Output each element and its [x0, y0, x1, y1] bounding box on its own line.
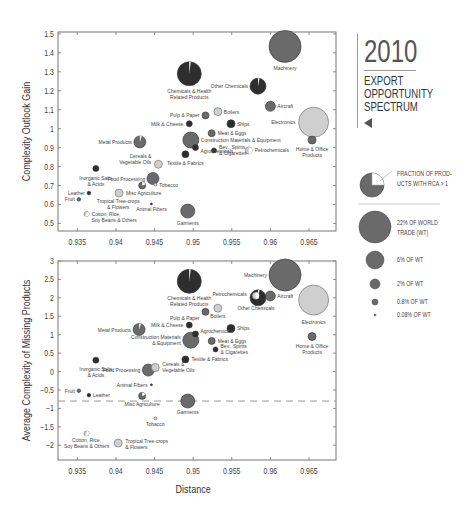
legend-size-circle	[372, 299, 378, 305]
bubble	[181, 394, 195, 408]
y-tick-label: 1.5	[44, 29, 54, 39]
point-label: Products	[302, 349, 322, 355]
bubble	[177, 269, 201, 293]
bubble	[269, 30, 301, 62]
bubble	[93, 165, 99, 171]
bubble	[299, 285, 329, 315]
y-tick-label: 0	[50, 367, 54, 377]
point-label: Misc Agriculture	[125, 401, 161, 407]
bubble	[252, 292, 259, 299]
point-label: Construction Materials & Equipment	[201, 137, 281, 143]
point-label: Leather	[93, 392, 110, 398]
y-tick-label: 0.8	[44, 162, 54, 172]
point-label: Other Chemicals	[237, 305, 275, 311]
bubble	[150, 203, 152, 205]
legend-size-label: TRADE (WT)	[397, 230, 428, 237]
bubble	[139, 182, 146, 189]
bubble	[269, 259, 301, 291]
legend-size-circle	[374, 314, 376, 316]
x-tick-label: 0.935	[69, 466, 86, 476]
bottom-scatter-panel: 0.9350.940.9450.950.9550.960.965−2−1.5−1…	[20, 256, 336, 495]
y-tick-label: 0.5	[44, 219, 54, 229]
title-divider	[364, 70, 416, 71]
title-block: 2010 EXPORT OPPORTUNITY SPECTRUM	[357, 34, 471, 128]
bubble	[87, 191, 91, 195]
bubble	[214, 108, 222, 116]
point-label: Garments	[177, 220, 199, 226]
y-axis-label: Complexity Outlook Gain	[20, 82, 32, 182]
y-tick-label: 3	[50, 256, 54, 266]
point-label: Agrochemicals	[200, 328, 233, 334]
bubble	[250, 78, 266, 94]
bubble	[77, 198, 81, 202]
bubble	[154, 183, 157, 186]
bubble	[202, 112, 209, 119]
bubble	[84, 211, 89, 216]
bubble	[84, 431, 89, 436]
x-tick-label: 0.96	[264, 466, 278, 476]
bubble	[192, 145, 198, 151]
point-label: Milk & Cheese	[151, 322, 183, 328]
x-tick-label: 0.95	[186, 237, 200, 247]
bubble	[87, 393, 91, 397]
bubble	[115, 189, 123, 197]
point-label: Machinery	[244, 272, 268, 278]
point-label: Related Products	[170, 94, 209, 100]
bubble	[77, 389, 81, 393]
y-tick-label: −1.5	[40, 422, 54, 432]
x-tick-label: 0.95	[186, 466, 200, 476]
point-label: Boilers	[224, 109, 240, 115]
bubble	[177, 62, 201, 86]
legend-size-label: 6% OF WT	[397, 257, 424, 264]
y-tick-label: −2	[46, 441, 54, 451]
triangle-left-icon	[364, 118, 372, 128]
point-label: & Equipment	[152, 340, 181, 346]
point-label: Textile & Fabrics	[191, 356, 228, 362]
point-label: & Cigarettes	[221, 349, 249, 355]
top-scatter-panel: 0.9350.940.9450.950.9550.960.9650.50.60.…	[20, 29, 336, 247]
point-label: Fruit	[65, 388, 76, 394]
x-axis-label: Distance	[176, 483, 211, 495]
legend-size-label: 22% OF WORLD	[397, 220, 438, 227]
point-label: & Acids	[87, 181, 104, 187]
bubble	[150, 384, 152, 386]
bubble	[154, 417, 157, 420]
legend-size-label: 0.08% OF WT	[397, 312, 431, 319]
y-tick-label: −1	[46, 404, 54, 414]
y-tick-label: 1.4	[44, 48, 54, 58]
bubble	[202, 308, 209, 315]
y-tick-label: 0.7	[44, 181, 54, 191]
bubble	[265, 291, 275, 301]
x-tick-label: 0.935	[69, 237, 86, 247]
bubble	[93, 357, 99, 363]
legend-size-circle	[359, 211, 391, 243]
point-label: Meat & Eggs	[218, 130, 247, 136]
point-label: Misc Agriculture	[126, 190, 162, 196]
point-label: Garments	[177, 409, 199, 415]
bubble	[213, 347, 218, 352]
y-tick-label: −0.5	[40, 385, 54, 395]
bubble	[182, 151, 189, 158]
point-label: Leather	[68, 190, 85, 196]
point-label: & Cigarettes	[219, 150, 247, 156]
bubble	[134, 136, 146, 148]
bubble	[114, 439, 122, 447]
point-label: Milk & Cheese	[151, 121, 183, 127]
legend-pie-label: FRACTION OF PROD-	[397, 171, 452, 178]
point-label: Tobacco	[159, 182, 178, 188]
point-label: Related Products	[170, 301, 209, 307]
y-axis-label: Average Complexity of Missing Products	[20, 280, 32, 442]
x-tick-label: 0.96	[264, 237, 278, 247]
bubble	[308, 136, 316, 144]
y-tick-label: 1.1	[44, 105, 54, 115]
x-tick-label: 0.945	[146, 466, 163, 476]
bubble	[147, 173, 159, 185]
x-tick-label: 0.94	[109, 237, 123, 247]
legend-size-label: 2% OF WT	[397, 281, 424, 288]
legend-pie-label: UCTS WITH RCA > 1	[397, 181, 449, 188]
point-label: Electronics	[301, 319, 326, 325]
point-label: Petrochemicals	[255, 147, 290, 153]
point-label: Boilers	[210, 313, 226, 319]
bubble	[308, 333, 316, 341]
bubble	[151, 364, 159, 372]
